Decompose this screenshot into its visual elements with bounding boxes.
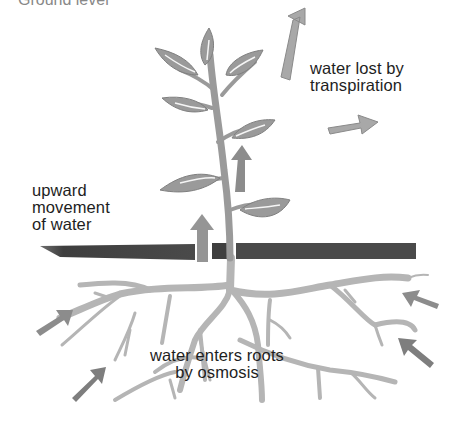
arrow-stem-up [231, 145, 252, 192]
leaf-mid-left [162, 97, 208, 112]
arrow-root-right-2 [398, 338, 434, 368]
label-transpiration: water lost by transpiration [310, 60, 404, 94]
label-upward-movement: upward movement of water [32, 182, 110, 233]
label-osmosis-line1: water enters roots [137, 347, 297, 364]
arrow-transpiration-up [281, 8, 305, 80]
arrow-root-left-1 [36, 310, 73, 336]
label-upward-line2: movement [32, 199, 110, 216]
arrow-root-right-1 [402, 290, 439, 309]
arrow-root-left-2 [72, 367, 106, 402]
arrow-transpiration-right [328, 115, 378, 134]
label-transpiration-line1: water lost by [310, 60, 404, 77]
plant-leaves [155, 28, 290, 217]
leaf-lower-left [160, 174, 220, 192]
label-upward-line3: of water [32, 216, 110, 233]
label-transpiration-line2: transpiration [310, 77, 404, 94]
label-osmosis: water enters roots by osmosis [137, 347, 297, 381]
label-osmosis-line2: by osmosis [137, 364, 297, 381]
label-upward-line1: upward [32, 182, 110, 199]
